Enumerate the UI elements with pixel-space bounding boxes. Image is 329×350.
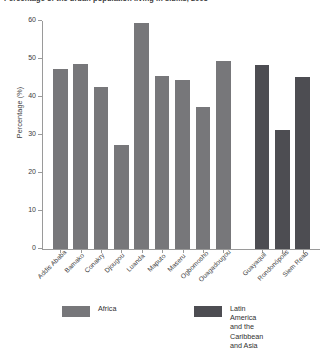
chart-legend: Africa Latin America and the Caribbean a… xyxy=(62,305,327,333)
x-axis-tick-label: Maputo xyxy=(146,252,167,273)
y-axis-tick-mark xyxy=(38,210,42,211)
x-axis-tick-label: Conakry xyxy=(83,251,106,274)
y-axis-tick-mark xyxy=(38,134,42,135)
bar xyxy=(255,65,270,249)
y-axis-tick-mark xyxy=(38,172,42,173)
bar xyxy=(155,76,170,249)
y-axis-tick-mark xyxy=(38,58,42,59)
x-axis-tick-label: Djougou xyxy=(103,251,126,274)
y-axis-tick-label: 50 xyxy=(28,54,36,61)
y-axis-tick-label: 0 xyxy=(32,244,36,251)
y-axis-tick-label: 30 xyxy=(28,130,36,137)
x-axis-tick-label: Luanda xyxy=(125,252,146,273)
bars-layer xyxy=(43,21,319,249)
y-axis-title: Percentage (%) xyxy=(15,38,24,188)
legend-swatch-africa xyxy=(62,306,90,317)
bar xyxy=(216,61,231,249)
y-axis-tick-label: 40 xyxy=(28,92,36,99)
bar xyxy=(53,69,68,250)
legend-label-latin-america-caribbean-asia: Latin America and the Caribbean and Asia xyxy=(230,304,263,350)
y-axis-tick-label: 10 xyxy=(28,206,36,213)
legend-label-africa: Africa xyxy=(98,304,116,313)
bar xyxy=(73,64,88,249)
bar xyxy=(94,87,109,249)
legend-swatch-latin-america-caribbean-asia xyxy=(194,306,222,317)
x-axis-tick-label: Addis Ababa xyxy=(36,249,68,281)
bar xyxy=(175,80,190,249)
y-axis-tick-mark xyxy=(38,96,42,97)
bar xyxy=(114,145,129,249)
bar xyxy=(134,23,149,249)
x-axis-tick-label: Bamako xyxy=(63,251,85,273)
chart-title: Percentage of the urban population livin… xyxy=(4,0,324,3)
bar xyxy=(196,107,211,250)
plot-area: 0102030405060 xyxy=(42,21,319,249)
x-axis-line xyxy=(42,249,320,250)
y-axis-tick-label: 60 xyxy=(28,16,36,23)
bar xyxy=(295,77,310,249)
bar xyxy=(275,130,290,249)
y-axis-tick-label: 20 xyxy=(28,168,36,175)
y-axis-tick-mark xyxy=(38,20,42,21)
